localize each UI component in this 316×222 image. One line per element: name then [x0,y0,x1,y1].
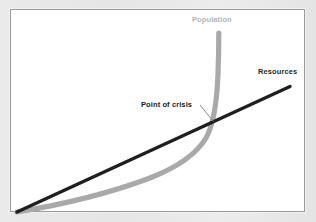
series-population-curve [17,33,219,212]
chart-canvas [0,0,316,222]
annotation-label-point-of-crisis: Point of crisis [141,101,192,109]
chart-figure: Population Resources Point of crisis [0,0,316,222]
series-label-resources: Resources [258,68,297,76]
series-label-population: Population [192,16,232,24]
